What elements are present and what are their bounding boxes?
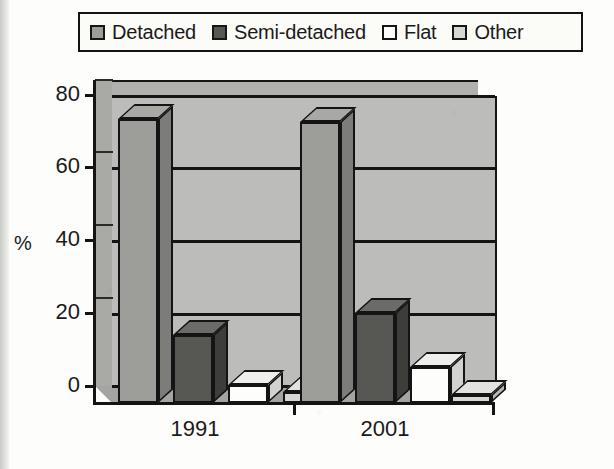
bar-side-face [158,105,173,403]
legend-label-detached: Detached [112,22,196,42]
gridline-left-20 [95,297,113,299]
legend-swatch-detached [90,25,105,40]
bar-front-face [173,335,213,403]
bar-2001-flat[interactable] [410,367,450,403]
y-tick-60 [85,166,95,169]
plot-left-wall [95,80,112,386]
y-tick-80 [85,94,95,97]
legend-item-flat: Flat [382,22,437,42]
x-tick-label-1991: 1991 [135,418,255,440]
bar-1991-detached[interactable] [118,119,158,403]
y-tick-label-0: 0 [28,374,80,396]
legend-label-flat: Flat [404,22,437,42]
y-tick-label-40: 40 [28,228,80,250]
y-tick-0 [85,385,95,388]
y-tick-20 [85,312,95,315]
bar-1991-semi-detached[interactable] [173,335,213,403]
x-tick-1991 [293,404,296,415]
legend-item-other: Other [452,22,523,42]
bar-front-face [300,122,340,403]
y-tick-label-20: 20 [28,301,80,323]
bar-chart: 80 60 40 20 0 % [0,60,614,460]
gridline-left-40 [95,224,113,226]
bar-2001-semi-detached[interactable] [355,313,395,403]
bar-2001-detached[interactable] [300,122,340,403]
y-tick-label-80: 80 [28,83,80,105]
legend-item-semi-detached: Semi-detached [212,22,366,42]
legend-swatch-flat [382,25,397,40]
bar-front-face [355,313,395,403]
bar-side-face [213,321,228,403]
x-tick-2001 [492,404,495,415]
bar-front-face [410,367,450,403]
legend-label-other: Other [474,22,523,42]
legend-item-detached: Detached [90,22,196,42]
gridline-80 [112,95,495,98]
gridline-left-60 [95,151,113,153]
y-axis-title: % [14,232,32,255]
y-tick-40 [85,239,95,242]
bar-1991-flat[interactable] [228,385,268,403]
legend-swatch-other [452,25,467,40]
bar-front-face [228,385,268,403]
bar-front-face [118,119,158,403]
x-tick-label-2001: 2001 [325,418,445,440]
legend-swatch-semi-detached [212,25,227,40]
y-axis-line [93,80,96,405]
gridline-left-80 [95,79,113,81]
bar-side-face [395,299,410,403]
y-tick-label-60: 60 [28,155,80,177]
legend-label-semi-detached: Semi-detached [234,22,366,42]
chart-legend: Detached Semi-detached Flat Other [78,12,583,52]
bar-side-face [340,108,355,403]
